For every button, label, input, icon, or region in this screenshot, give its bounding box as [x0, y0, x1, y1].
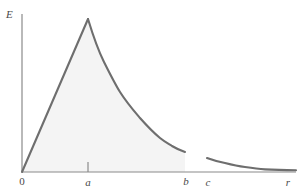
x-axis-label: r	[281, 177, 295, 188]
y-axis-label: E	[6, 9, 13, 20]
x-tick-label-origin: 0	[15, 176, 29, 187]
x-tick-label-a: a	[81, 177, 95, 188]
shaded-area-under-curve	[22, 19, 185, 172]
x-tick-label-b: b	[179, 176, 193, 187]
x-tick-label-c: c	[201, 177, 215, 188]
curve-outer-branch	[207, 158, 296, 170]
plot-canvas	[0, 0, 302, 195]
